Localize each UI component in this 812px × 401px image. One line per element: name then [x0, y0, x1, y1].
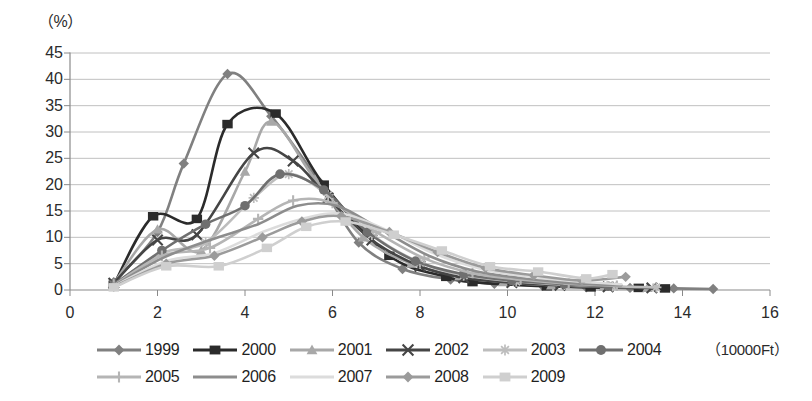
legend-marker-diamond-icon: [96, 342, 142, 358]
data-point-marker-circle: [240, 201, 250, 211]
data-point-marker-diamond: [179, 158, 189, 168]
legend-swatch-cross-x-icon: [385, 342, 431, 358]
data-point-marker-square: [485, 262, 495, 271]
y-axis-tick-label: 10: [29, 228, 63, 246]
y-axis-tick-label: 35: [29, 97, 63, 115]
legend-marker-diamond-icon: [385, 369, 431, 385]
x-axis-tick-label: 6: [328, 304, 337, 322]
legend-swatch-line-icon: [192, 369, 238, 385]
data-point-marker-square: [607, 270, 617, 279]
legend-row-2: 20052006200720082009: [96, 363, 696, 390]
legend-label: 1999: [145, 341, 179, 359]
legend-marker-circle-icon: [578, 342, 624, 358]
legend-swatch-square-icon: [192, 342, 238, 358]
data-point-marker-circle: [201, 219, 211, 229]
legend-label: 2002: [434, 341, 468, 359]
data-point-marker-square: [270, 109, 280, 118]
legend-item-2007[interactable]: 2007: [289, 368, 372, 386]
chart-root: （%） （10000Ft） 051015202530354045 0246810…: [0, 0, 812, 401]
data-point-marker-square: [192, 215, 202, 224]
data-point-marker-square: [581, 274, 591, 283]
plot-area: 051015202530354045 0246810121416: [70, 53, 770, 290]
legend-item-2006[interactable]: 2006: [192, 368, 275, 386]
y-axis-tick-label: 20: [29, 176, 63, 194]
legend-marker-line-icon: [289, 369, 335, 385]
legend-label: 2004: [627, 341, 661, 359]
legend-marker-line-icon: [192, 369, 238, 385]
legend-label: 2000: [241, 341, 275, 359]
x-axis-unit-label: （10000Ft）: [706, 338, 788, 359]
legend-item-2001[interactable]: 2001: [289, 341, 372, 359]
x-axis-tick-label: 12: [586, 304, 604, 322]
data-point-marker-circle: [275, 169, 285, 179]
y-axis-tick-label: 45: [29, 44, 63, 62]
data-point-marker-diamond: [114, 344, 125, 355]
series-2002: [109, 148, 658, 293]
series-line: [114, 121, 648, 287]
data-point-marker-diamond: [403, 371, 414, 382]
data-point-marker-square: [161, 262, 171, 271]
legend-swatch-diamond-icon: [96, 342, 142, 358]
legend-swatch-triangle-icon: [289, 342, 335, 358]
data-point-marker-square: [148, 212, 158, 221]
legend-label: 2009: [531, 368, 565, 386]
data-point-marker-square: [660, 284, 670, 293]
legend-marker-asterisk-icon: [482, 342, 528, 358]
legend-label: 2008: [434, 368, 468, 386]
data-point-marker-circle: [319, 185, 329, 195]
legend-item-2008[interactable]: 2008: [385, 368, 468, 386]
x-axis-tick-label: 4: [241, 304, 250, 322]
legend-label: 2001: [338, 341, 372, 359]
y-axis-tick-label: 25: [29, 149, 63, 167]
legend-item-2005[interactable]: 2005: [96, 368, 179, 386]
data-point-marker-square: [214, 262, 224, 271]
legend-marker-triangle-icon: [289, 342, 335, 358]
y-axis-tick-label: 40: [29, 70, 63, 88]
data-point-marker-square: [533, 267, 543, 276]
data-point-marker-diamond: [708, 284, 718, 294]
x-axis-tick-label: 16: [761, 304, 779, 322]
legend-swatch-plus-icon: [96, 369, 142, 385]
legend-item-2003[interactable]: 2003: [482, 341, 565, 359]
data-point-marker-square: [340, 217, 350, 226]
legend-label: 2005: [145, 368, 179, 386]
data-point-marker-square: [222, 120, 232, 129]
legend-item-2004[interactable]: 2004: [578, 341, 661, 359]
x-axis-tick-label: 14: [674, 304, 692, 322]
legend-marker-cross-x-icon: [385, 342, 431, 358]
data-point-marker-square: [262, 244, 272, 253]
legend-swatch-diamond-icon: [385, 369, 431, 385]
legend-item-2000[interactable]: 2000: [192, 341, 275, 359]
x-axis-tick-label: 0: [66, 304, 75, 322]
data-point-marker-square: [301, 223, 311, 232]
data-point-marker-square: [499, 372, 510, 381]
chart-legend: 199920002001200220032004 200520062007200…: [96, 336, 696, 390]
data-point-marker-diamond: [620, 272, 630, 282]
series-layer: [70, 53, 770, 290]
y-axis-tick-label: 15: [29, 202, 63, 220]
legend-swatch-asterisk-icon: [482, 342, 528, 358]
legend-item-1999[interactable]: 1999: [96, 341, 179, 359]
y-axis-tick-label: 0: [29, 281, 63, 299]
legend-swatch-circle-icon: [578, 342, 624, 358]
legend-label: 2006: [241, 368, 275, 386]
legend-swatch-line-icon: [289, 369, 335, 385]
legend-marker-square-icon: [192, 342, 238, 358]
data-point-marker-asterisk: [651, 282, 661, 292]
data-point-marker-square: [389, 230, 399, 239]
data-point-marker-circle: [596, 345, 606, 355]
legend-row-1: 199920002001200220032004: [96, 336, 696, 363]
data-point-marker-asterisk: [499, 344, 510, 355]
x-axis-tick-label: 2: [153, 304, 162, 322]
data-point-marker-square: [109, 283, 119, 292]
y-axis-tick-label: 30: [29, 123, 63, 141]
x-axis-tick-label: 10: [499, 304, 517, 322]
x-axis-tick-label: 8: [416, 304, 425, 322]
y-axis-unit-label: （%）: [38, 8, 83, 32]
legend-item-2002[interactable]: 2002: [385, 341, 468, 359]
data-point-marker-square: [437, 246, 447, 255]
legend-marker-square-icon: [482, 369, 528, 385]
legend-item-2009[interactable]: 2009: [482, 368, 565, 386]
legend-marker-plus-icon: [96, 369, 142, 385]
data-point-marker-plus: [288, 195, 298, 205]
